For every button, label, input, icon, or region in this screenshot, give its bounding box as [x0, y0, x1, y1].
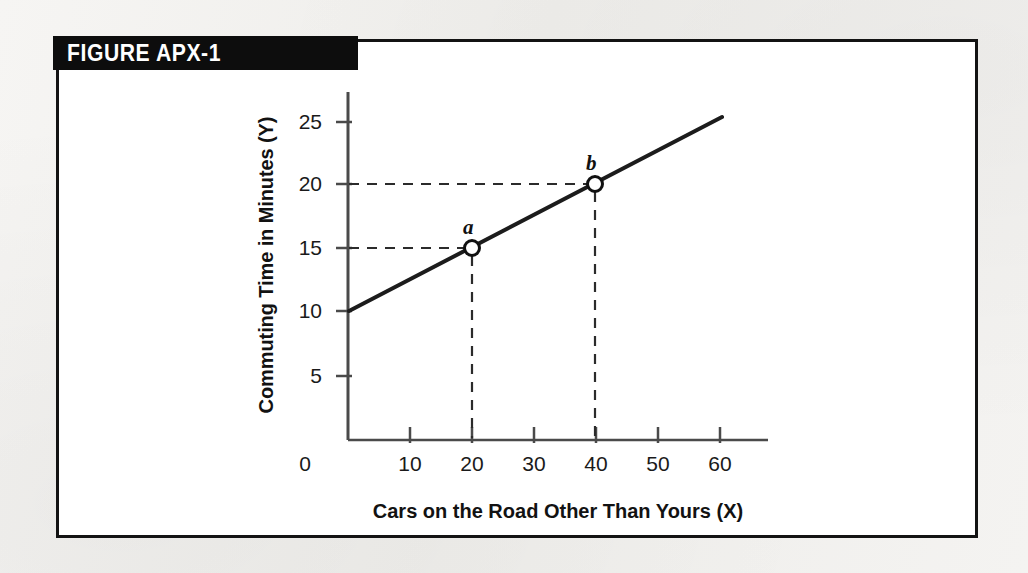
x-tick-label-50: 50	[636, 452, 680, 476]
figure-title-bar: FIGURE APX-1	[53, 36, 358, 70]
point-label-b: b	[586, 151, 597, 176]
y-tick-label-15: 15	[276, 236, 322, 260]
y-tick-label-10: 10	[276, 299, 322, 323]
x-tick-label-30: 30	[512, 452, 556, 476]
x-tick-label-0: 0	[285, 452, 325, 476]
x-tick-label-40: 40	[574, 452, 618, 476]
x-tick-label-60: 60	[698, 452, 742, 476]
figure-title: FIGURE APX-1	[67, 40, 221, 67]
x-tick-label-20: 20	[450, 452, 494, 476]
y-tick-label-25: 25	[276, 110, 322, 134]
y-tick-label-20: 20	[276, 172, 322, 196]
y-tick-label-5: 5	[276, 364, 322, 388]
point-label-a: a	[463, 215, 474, 240]
x-axis-title: Cars on the Road Other Than Yours (X)	[348, 500, 768, 523]
x-tick-label-10: 10	[388, 452, 432, 476]
